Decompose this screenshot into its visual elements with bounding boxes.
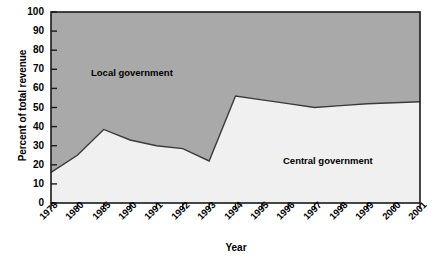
y-tick-label: 50 <box>16 103 44 113</box>
central-government-label: Central government <box>283 155 373 166</box>
y-tick-label: 100 <box>16 7 44 17</box>
y-tick-label: 80 <box>16 45 44 55</box>
y-tick-label: 70 <box>16 64 44 74</box>
local-government-label: Local government <box>91 67 173 78</box>
chart-canvas <box>0 0 434 262</box>
y-tick-label: 90 <box>16 26 44 36</box>
y-tick-label: 0 <box>16 198 44 208</box>
y-tick-label: 40 <box>16 122 44 132</box>
y-tick-label: 60 <box>16 83 44 93</box>
x-axis-title: Year <box>51 242 421 253</box>
y-tick-label: 30 <box>16 141 44 151</box>
chart-figure: Percent of total revenue Year 0102030405… <box>0 0 434 262</box>
y-tick-label: 20 <box>16 160 44 170</box>
y-tick-label: 10 <box>16 179 44 189</box>
